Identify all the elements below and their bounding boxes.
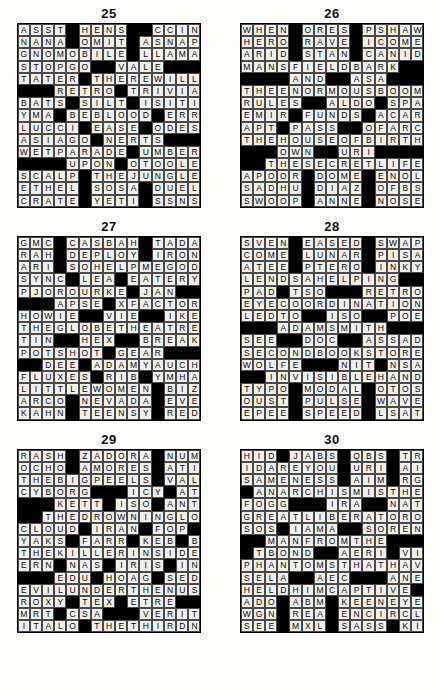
grid-letter-cell[interactable]: A (277, 572, 289, 584)
grid-letter-cell[interactable]: E (253, 310, 265, 322)
grid-letter-cell[interactable]: U (338, 146, 350, 158)
grid-letter-cell[interactable]: T (115, 195, 127, 207)
grid-letter-cell[interactable]: E (91, 596, 103, 608)
grid-letter-cell[interactable]: M (338, 170, 350, 182)
grid-letter-cell[interactable]: S (387, 97, 399, 109)
grid-letter-cell[interactable]: A (302, 122, 314, 134)
grid-letter-cell[interactable]: S (164, 572, 176, 584)
grid-letter-cell[interactable]: N (152, 170, 164, 182)
grid-letter-cell[interactable]: T (91, 620, 103, 632)
grid-letter-cell[interactable]: O (54, 486, 66, 498)
grid-letter-cell[interactable]: N (188, 620, 200, 632)
grid-letter-cell[interactable]: V (326, 36, 338, 48)
grid-letter-cell[interactable]: V (176, 395, 188, 407)
grid-letter-cell[interactable]: L (103, 109, 115, 121)
grid-letter-cell[interactable]: R (314, 24, 326, 36)
grid-letter-cell[interactable]: R (411, 450, 423, 462)
grid-letter-cell[interactable]: T (362, 359, 374, 371)
grid-letter-cell[interactable]: S (387, 334, 399, 346)
grid-letter-cell[interactable]: H (387, 559, 399, 571)
grid-letter-cell[interactable]: A (18, 24, 30, 36)
grid-letter-cell[interactable]: A (30, 97, 42, 109)
grid-letter-cell[interactable]: I (350, 322, 362, 334)
grid-letter-cell[interactable]: T (241, 134, 253, 146)
grid-letter-cell[interactable]: N (277, 24, 289, 36)
grid-letter-cell[interactable]: K (350, 347, 362, 359)
grid-letter-cell[interactable]: T (387, 383, 399, 395)
grid-letter-cell[interactable]: A (314, 195, 326, 207)
grid-letter-cell[interactable]: D (66, 249, 78, 261)
grid-letter-cell[interactable]: H (42, 462, 54, 474)
grid-letter-cell[interactable]: E (115, 286, 127, 298)
grid-letter-cell[interactable]: E (152, 61, 164, 73)
grid-letter-cell[interactable]: A (277, 535, 289, 547)
grid-letter-cell[interactable]: T (91, 498, 103, 510)
grid-letter-cell[interactable]: F (18, 371, 30, 383)
grid-letter-cell[interactable]: E (103, 322, 115, 334)
grid-letter-cell[interactable]: S (241, 195, 253, 207)
grid-letter-cell[interactable]: O (338, 85, 350, 97)
grid-letter-cell[interactable]: P (253, 170, 265, 182)
grid-letter-cell[interactable]: B (91, 109, 103, 121)
grid-letter-cell[interactable]: S (30, 24, 42, 36)
grid-letter-cell[interactable]: I (115, 310, 127, 322)
grid-letter-cell[interactable]: S (302, 286, 314, 298)
grid-letter-cell[interactable]: T (127, 85, 139, 97)
grid-letter-cell[interactable]: T (79, 85, 91, 97)
grid-letter-cell[interactable]: E (176, 572, 188, 584)
grid-letter-cell[interactable]: A (375, 109, 387, 121)
grid-letter-cell[interactable]: C (326, 584, 338, 596)
grid-letter-cell[interactable]: A (139, 36, 151, 48)
grid-letter-cell[interactable]: S (314, 122, 326, 134)
grid-letter-cell[interactable]: O (314, 334, 326, 346)
grid-letter-cell[interactable]: R (18, 596, 30, 608)
grid-letter-cell[interactable]: E (411, 195, 423, 207)
grid-letter-cell[interactable]: E (375, 170, 387, 182)
grid-letter-cell[interactable]: P (362, 24, 374, 36)
grid-letter-cell[interactable]: F (277, 359, 289, 371)
grid-letter-cell[interactable]: E (18, 559, 30, 571)
grid-letter-cell[interactable]: I (387, 298, 399, 310)
grid-letter-cell[interactable]: O (302, 298, 314, 310)
grid-letter-cell[interactable]: S (115, 182, 127, 194)
grid-letter-cell[interactable]: G (241, 511, 253, 523)
grid-letter-cell[interactable]: I (164, 73, 176, 85)
crossword-grid-29[interactable]: RASHZADORANUMOCHOAMORESATITHEBIGPEELSVAL… (17, 449, 202, 634)
grid-letter-cell[interactable]: L (314, 620, 326, 632)
grid-letter-cell[interactable]: P (66, 170, 78, 182)
grid-letter-cell[interactable]: O (115, 109, 127, 121)
grid-letter-cell[interactable]: I (18, 620, 30, 632)
grid-letter-cell[interactable]: A (350, 73, 362, 85)
grid-letter-cell[interactable]: I (164, 97, 176, 109)
grid-letter-cell[interactable]: S (18, 273, 30, 285)
grid-letter-cell[interactable]: S (127, 407, 139, 419)
grid-letter-cell[interactable]: I (42, 584, 54, 596)
grid-letter-cell[interactable]: N (350, 298, 362, 310)
grid-letter-cell[interactable]: S (338, 310, 350, 322)
grid-letter-cell[interactable]: D (66, 572, 78, 584)
grid-letter-cell[interactable]: O (387, 85, 399, 97)
grid-letter-cell[interactable]: N (139, 547, 151, 559)
grid-letter-cell[interactable]: Y (253, 298, 265, 310)
grid-letter-cell[interactable]: C (42, 122, 54, 134)
grid-letter-cell[interactable]: M (314, 596, 326, 608)
grid-letter-cell[interactable]: E (127, 462, 139, 474)
grid-letter-cell[interactable]: A (362, 511, 374, 523)
grid-letter-cell[interactable]: A (139, 298, 151, 310)
grid-letter-cell[interactable]: E (103, 547, 115, 559)
grid-letter-cell[interactable]: S (152, 547, 164, 559)
grid-letter-cell[interactable]: S (289, 273, 301, 285)
grid-letter-cell[interactable]: T (375, 511, 387, 523)
grid-letter-cell[interactable]: N (399, 572, 411, 584)
grid-letter-cell[interactable]: N (387, 359, 399, 371)
grid-letter-cell[interactable]: T (265, 158, 277, 170)
grid-letter-cell[interactable]: I (350, 359, 362, 371)
grid-letter-cell[interactable]: D (277, 48, 289, 60)
grid-letter-cell[interactable]: M (241, 61, 253, 73)
grid-letter-cell[interactable]: R (152, 334, 164, 346)
grid-letter-cell[interactable]: A (302, 450, 314, 462)
grid-letter-cell[interactable]: G (79, 486, 91, 498)
grid-letter-cell[interactable]: A (399, 462, 411, 474)
grid-letter-cell[interactable]: N (338, 195, 350, 207)
grid-letter-cell[interactable]: Y (152, 486, 164, 498)
